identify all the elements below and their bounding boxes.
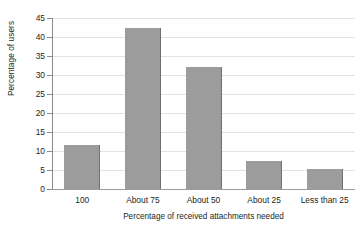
- y-axis-tick-label: 40: [19, 33, 45, 41]
- gridline: [52, 56, 355, 57]
- y-axis-tick-label: 20: [19, 109, 45, 117]
- x-axis-tick-labels: 100About 75About 50About 25Less than 25: [52, 195, 355, 209]
- plot-area: [52, 18, 355, 189]
- y-axis-tick-labels: 051015202530354045: [12, 0, 45, 237]
- y-axis-tick-label: 25: [19, 90, 45, 98]
- x-axis-title: Percentage of received attachments neede…: [52, 212, 355, 221]
- bar: [64, 145, 100, 189]
- y-axis-tick-label: 35: [19, 52, 45, 60]
- y-axis-tick-label: 5: [19, 166, 45, 174]
- y-axis-tick: [47, 151, 52, 152]
- y-axis-tick-label: 45: [19, 14, 45, 22]
- bar: [307, 169, 343, 189]
- bar-chart-figure: Percentage of users 051015202530354045 1…: [0, 0, 364, 237]
- x-axis-tick-label: About 50: [173, 195, 234, 205]
- x-axis-tick-label: Less than 25: [294, 195, 355, 205]
- gridline: [52, 18, 355, 19]
- x-axis-tick-label: 100: [52, 195, 113, 205]
- y-axis-tick: [47, 170, 52, 171]
- y-axis-tick: [47, 132, 52, 133]
- bar: [246, 161, 282, 190]
- x-axis-line: [52, 189, 355, 190]
- y-axis-tick: [47, 37, 52, 38]
- y-axis-tick-label: 0: [19, 185, 45, 193]
- gridline: [52, 37, 355, 38]
- y-axis-tick-label: 30: [19, 71, 45, 79]
- x-axis-tick-label: About 25: [234, 195, 295, 205]
- y-axis-tick: [47, 56, 52, 57]
- y-axis-tick: [47, 94, 52, 95]
- y-axis-tick-label: 15: [19, 128, 45, 136]
- bar: [186, 67, 222, 189]
- bar: [125, 28, 161, 189]
- x-axis-tick-label: About 75: [113, 195, 174, 205]
- y-axis-line: [52, 18, 53, 190]
- y-axis-tick: [47, 18, 52, 19]
- y-axis-tick: [47, 75, 52, 76]
- y-axis-tick-label: 10: [19, 147, 45, 155]
- y-axis-tick: [47, 113, 52, 114]
